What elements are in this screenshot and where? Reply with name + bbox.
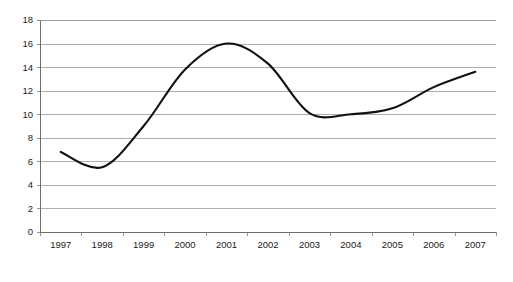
y-tick-label: 0 [28,226,33,237]
y-tick-label: 6 [28,156,33,167]
x-tick-label: 1997 [50,239,71,250]
chart-canvas: 024681012141618 199719981999200020012002… [0,0,513,282]
x-tick-label: 2003 [299,239,320,250]
x-tick-label: 2000 [175,239,196,250]
y-tick-label: 4 [28,179,33,190]
y-tick-label: 14 [22,62,33,73]
x-tick-label: 2007 [465,239,486,250]
line-chart-figure: 024681012141618 199719981999200020012002… [0,0,513,282]
x-tick-label: 2005 [382,239,403,250]
x-tick-label: 1999 [133,239,154,250]
x-tick-label: 2006 [423,239,444,250]
x-tick-label: 1998 [92,239,113,250]
x-tick-label: 2004 [340,239,361,250]
y-tick-label: 2 [28,203,33,214]
y-tick-label: 10 [22,109,33,120]
y-tick-label: 8 [28,132,33,143]
x-tick-label: 2001 [216,239,237,250]
x-tick-label: 2002 [257,239,278,250]
y-tick-label: 18 [22,14,33,25]
y-tick-label: 12 [22,85,33,96]
y-tick-label: 16 [22,38,33,49]
